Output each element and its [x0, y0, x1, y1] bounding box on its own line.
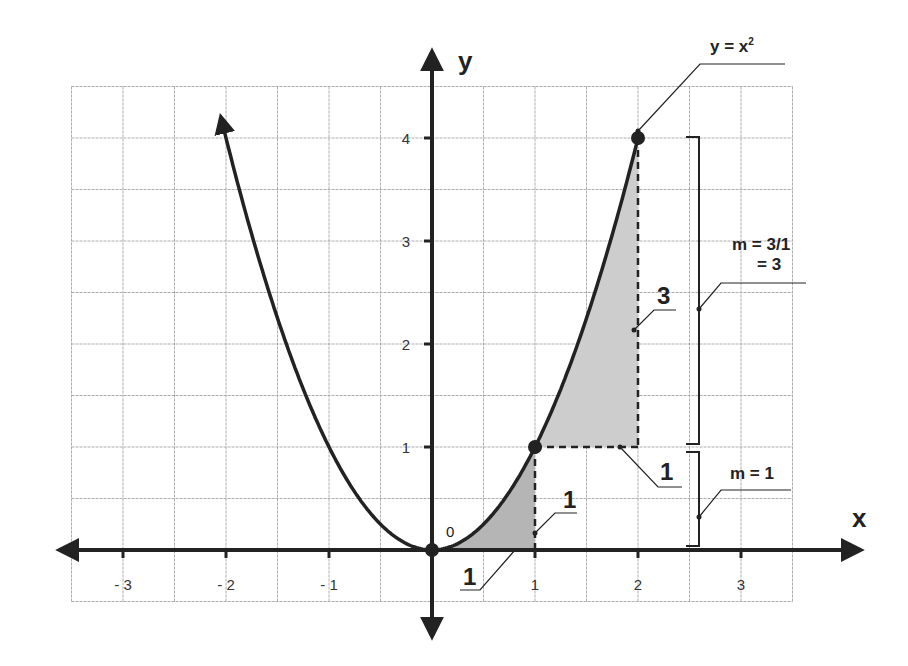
leader-slope-big — [699, 283, 806, 309]
rise1-label: 1 — [563, 486, 576, 513]
x-tick-label: 2 — [634, 576, 642, 593]
parabola-diagram: y x 0 y = x2 m = 3/1 = 3 m = 1 3 1 1 1 -… — [0, 0, 908, 666]
curve-point — [425, 543, 439, 557]
bracket-large — [686, 137, 699, 444]
function-label: y = x2 — [710, 36, 754, 56]
tick-labels: - 3- 2- 11231234 — [114, 130, 745, 593]
leader-rise2 — [634, 310, 676, 330]
y-tick-label: 2 — [402, 336, 410, 353]
slope-big-line1: m = 3/1 — [732, 235, 790, 254]
y-tick-label: 1 — [402, 439, 410, 456]
rise2-label: 3 — [657, 282, 670, 309]
leader-func — [638, 64, 785, 131]
slope-brackets — [686, 137, 699, 546]
slope-small-label: m = 1 — [730, 464, 774, 483]
x-tick-label: - 2 — [217, 576, 235, 593]
slope-big-line2: = 3 — [757, 255, 781, 274]
bracket-small — [686, 452, 699, 546]
leader-rise1 — [535, 513, 577, 533]
y-axis-label: y — [458, 46, 473, 76]
curve-point — [528, 440, 542, 454]
leader-slope-small — [699, 490, 791, 517]
x-axis-label: x — [852, 503, 867, 533]
x-tick-label: 1 — [531, 576, 539, 593]
y-tick-label: 4 — [402, 130, 410, 147]
run1-label: 1 — [463, 563, 476, 590]
x-tick-label: - 3 — [114, 576, 132, 593]
y-tick-label: 3 — [402, 233, 410, 250]
origin-label: 0 — [446, 523, 454, 540]
x-tick-label: - 1 — [320, 576, 338, 593]
run2-label: 1 — [660, 458, 673, 485]
x-tick-label: 3 — [737, 576, 745, 593]
